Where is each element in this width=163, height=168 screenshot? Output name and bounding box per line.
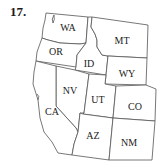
label-mt: MT — [115, 35, 130, 46]
label-az: AZ — [86, 130, 99, 141]
label-wa: WA — [60, 22, 76, 33]
label-co: CO — [128, 101, 142, 112]
label-id: ID — [84, 58, 95, 69]
label-wy: WY — [119, 68, 136, 79]
label-or: OR — [49, 46, 63, 57]
label-ca: CA — [45, 106, 60, 117]
label-nm: NM — [121, 137, 137, 148]
label-ut: UT — [91, 94, 104, 105]
label-nv: NV — [63, 85, 78, 96]
western-us-map: WA OR ID MT WY NV UT CO CA AZ NM — [0, 0, 163, 168]
